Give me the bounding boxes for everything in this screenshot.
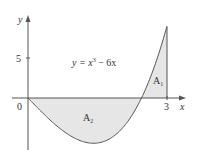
region-a1-subscript: 1 — [160, 81, 163, 87]
y-axis-arrow-icon — [26, 15, 31, 22]
y-tick-label-5: 5 — [16, 53, 21, 64]
x-tick-label-3: 3 — [164, 101, 169, 112]
x-axis-arrow-icon — [179, 96, 186, 101]
region-a2-subscript: 2 — [90, 118, 93, 124]
equation-rest: − 6x — [96, 57, 117, 68]
y-axis-label: y — [17, 14, 23, 25]
origin-label: 0 — [17, 101, 22, 112]
chart-canvas: y 5 0 3 x y = x3 − 6x A1 A2 — [0, 0, 197, 157]
x-axis-label: x — [179, 101, 185, 112]
region-a1-fill — [141, 26, 167, 98]
equation-label: y = x3 − 6x — [71, 57, 116, 68]
equation-main: y = x — [71, 57, 93, 68]
